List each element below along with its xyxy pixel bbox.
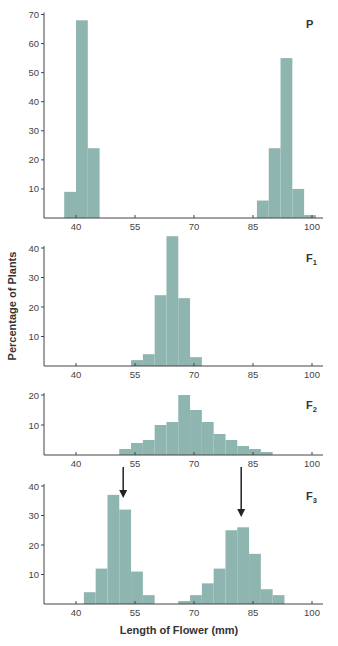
x-axis-label: Length of Flower (mm) bbox=[0, 624, 338, 636]
histogram-chart: 1020304050607040557085100P10203040405570… bbox=[0, 0, 338, 646]
histogram-bar bbox=[214, 569, 226, 604]
y-tick-label: 20 bbox=[28, 540, 39, 551]
y-tick-label: 40 bbox=[28, 96, 39, 107]
x-tick-label: 100 bbox=[304, 369, 320, 380]
histogram-bar bbox=[84, 592, 96, 604]
y-tick-label: 10 bbox=[28, 569, 39, 580]
y-tick-label: 10 bbox=[28, 331, 39, 342]
x-tick-label: 100 bbox=[304, 607, 320, 618]
x-tick-label: 40 bbox=[71, 607, 82, 618]
histogram-bar bbox=[190, 595, 202, 604]
y-tick-label: 10 bbox=[28, 183, 39, 194]
panel-f1: 1020304040557085100F1 bbox=[28, 236, 323, 380]
histogram-bar bbox=[119, 449, 131, 455]
arrow-icon bbox=[237, 467, 245, 517]
histogram-bar bbox=[257, 201, 269, 218]
x-tick-label: 85 bbox=[248, 221, 259, 232]
x-tick-label: 70 bbox=[189, 221, 200, 232]
x-tick-label: 70 bbox=[189, 369, 200, 380]
histogram-bar bbox=[190, 410, 202, 455]
y-tick-label: 50 bbox=[28, 67, 39, 78]
x-tick-label: 55 bbox=[130, 458, 141, 469]
x-tick-label: 100 bbox=[304, 221, 320, 232]
histogram-bar bbox=[143, 595, 155, 604]
y-tick-label: 60 bbox=[28, 38, 39, 49]
panel-label: F3 bbox=[306, 490, 317, 505]
histogram-bar bbox=[155, 295, 167, 366]
histogram-bar bbox=[190, 357, 202, 366]
y-tick-label: 30 bbox=[28, 510, 39, 521]
histogram-bar bbox=[166, 236, 178, 366]
histogram-bar bbox=[131, 572, 143, 604]
y-tick-label: 40 bbox=[28, 481, 39, 492]
histogram-bar bbox=[131, 360, 143, 366]
x-tick-label: 100 bbox=[304, 458, 320, 469]
histogram-bar bbox=[202, 583, 214, 604]
x-tick-label: 55 bbox=[130, 369, 141, 380]
x-tick-label: 55 bbox=[130, 221, 141, 232]
y-tick-label: 30 bbox=[28, 272, 39, 283]
y-tick-label: 70 bbox=[28, 9, 39, 20]
y-tick-label: 20 bbox=[28, 302, 39, 313]
y-tick-label: 30 bbox=[28, 125, 39, 136]
histogram-bar bbox=[269, 148, 281, 218]
x-tick-label: 55 bbox=[130, 607, 141, 618]
panel-label: P bbox=[306, 18, 313, 30]
histogram-bar bbox=[131, 443, 143, 455]
x-tick-label: 70 bbox=[189, 607, 200, 618]
y-tick-label: 40 bbox=[28, 243, 39, 254]
panel-p: 1020304050607040557085100P bbox=[28, 9, 323, 232]
histogram-bar bbox=[249, 449, 261, 455]
histogram-bar bbox=[178, 395, 190, 455]
panel-label: F1 bbox=[306, 252, 317, 267]
x-tick-label: 40 bbox=[71, 221, 82, 232]
histogram-bar bbox=[76, 20, 88, 218]
histogram-bar bbox=[64, 192, 76, 218]
y-axis-label: Percentage of Plants bbox=[6, 226, 18, 386]
panel-label: F2 bbox=[306, 399, 317, 414]
histogram-bar bbox=[249, 554, 261, 604]
histogram-bar bbox=[166, 422, 178, 455]
y-tick-label: 20 bbox=[28, 390, 39, 401]
histogram-bar bbox=[237, 446, 249, 455]
histogram-bar bbox=[261, 589, 273, 604]
x-tick-label: 85 bbox=[248, 369, 259, 380]
histogram-bar bbox=[214, 434, 226, 455]
histogram-bar bbox=[88, 148, 100, 218]
histogram-bar bbox=[237, 527, 249, 604]
x-tick-label: 40 bbox=[71, 369, 82, 380]
y-tick-label: 20 bbox=[28, 154, 39, 165]
histogram-bar bbox=[225, 440, 237, 455]
histogram-bar bbox=[96, 569, 108, 604]
histogram-bar bbox=[225, 530, 237, 604]
histogram-bar bbox=[273, 595, 285, 604]
arrow-icon bbox=[119, 467, 127, 498]
histogram-bar bbox=[178, 298, 190, 366]
y-tick-label: 10 bbox=[28, 420, 39, 431]
histogram-bar bbox=[292, 189, 304, 218]
histogram-bar bbox=[119, 510, 131, 604]
panel-f3: 1020304040557085100F3 bbox=[28, 481, 323, 619]
histogram-bar bbox=[143, 354, 155, 366]
histogram-bar bbox=[155, 425, 167, 455]
x-tick-label: 40 bbox=[71, 458, 82, 469]
x-tick-label: 70 bbox=[189, 458, 200, 469]
histogram-bar bbox=[107, 495, 119, 604]
x-tick-label: 85 bbox=[248, 458, 259, 469]
histogram-bar bbox=[202, 422, 214, 455]
histogram-bar bbox=[281, 58, 293, 218]
x-tick-label: 85 bbox=[248, 607, 259, 618]
histogram-bar bbox=[143, 440, 155, 455]
panel-f2: 102040557085100F2 bbox=[28, 390, 323, 470]
